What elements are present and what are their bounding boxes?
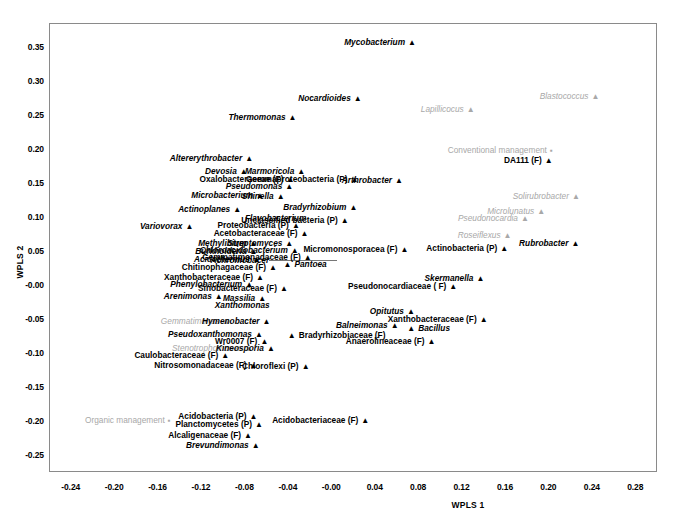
triangle-marker-icon: ▲ [285,181,293,190]
triangle-marker-icon: ▲ [476,274,484,283]
x-axis-title: WPLS 1 [0,500,680,510]
data-point-label: Altererythrobacter [170,153,242,163]
data-point: Micromonosporacea (F)▲ [303,244,408,253]
data-point-label: Rubrobacter [519,237,568,247]
data-point-label: Alcaligenaceae (F) [168,429,241,439]
triangle-marker-icon: ▲ [263,316,271,325]
data-point-label: Shinella [242,191,274,201]
data-point-label: Organic management [85,415,165,425]
wpls-scatter-plot: 0.350.300.250.200.150.100.05-0.00-0.05-0… [0,0,680,522]
y-tick-label: -0.20 [25,416,44,426]
data-point-label: Nitrosomonadaceae (F) [154,359,246,369]
data-point: Alcaligenaceae (F)▲ [168,430,252,439]
data-point: Pseudonocardia▲ [458,214,529,223]
triangle-marker-icon: ▲ [500,244,508,253]
y-tick-label: -0.10 [25,348,44,358]
data-point-label: Actinoplanes [178,203,230,213]
data-point: Organic management▪ [85,416,171,425]
x-tick-label: 0.04 [367,482,383,492]
triangle-marker-icon: ▲ [288,330,296,339]
data-point-label: Pseudonocardiaceae ( F) [348,280,446,290]
data-point: Shinella▲ [242,192,285,201]
data-point-label: Pseudonocardia [458,213,518,223]
data-point: Lapillicocus▲ [421,105,475,114]
triangle-marker-icon: ▲ [480,314,488,323]
data-point: Actinobacteria (P)▲ [426,244,508,253]
data-point: Solirubrobacter▲ [513,191,580,200]
data-point-label: Lapillicocus [421,104,464,114]
data-point: Variovorax▲ [140,222,194,231]
x-tick-label: 0.08 [410,482,426,492]
data-point: Chloroflexi (P)▲ [242,361,310,370]
x-tick-label: 0.24 [584,482,600,492]
data-point-label: Hymenobacter [202,315,260,325]
triangle-marker-icon: ▲ [244,430,252,439]
triangle-marker-icon: ▲ [361,416,369,425]
data-point-label: Anaerolineaceae (F) [346,335,425,345]
data-point: Rubrobacter▲ [519,238,579,247]
triangle-marker-icon: ▲ [185,222,193,231]
data-point: Altererythrobacter▲ [170,154,253,163]
data-point: Acetobacteraceae (F)▲ [214,228,309,237]
data-point: ▲Bacillus [407,323,450,332]
data-point: Pseudonocardiaceae ( F)▲ [348,281,457,290]
data-point-label: Arthrobacter [342,175,392,185]
triangle-marker-icon: ▲ [349,203,357,212]
triangle-marker-icon: ▲ [354,93,362,102]
triangle-marker-icon: ▲ [395,176,403,185]
data-point-label: Bradyrhizobium [283,202,346,212]
data-point-label: Mycobacterium [344,37,405,47]
data-point: Thermomonas▲ [228,112,296,121]
data-point: Nocardioides▲ [298,93,361,102]
triangle-marker-icon: ▲ [341,216,349,225]
triangle-marker-icon: ▲ [269,263,277,272]
y-tick-label: -0.25 [25,450,44,460]
y-tick-label: -0.15 [25,382,44,392]
data-point-label: Actinobacteria (P) [426,243,497,253]
data-point: ▲Pantoea [284,259,327,268]
data-point: DA111 (F)▲ [504,155,553,164]
data-point: Planctomycetes (P)▲ [175,420,262,429]
triangle-marker-icon: ▲ [545,155,553,164]
data-point-label: Solirubrobacter [513,190,569,200]
x-tick-label: 0.16 [497,482,513,492]
data-point: Actinoplanes▲ [178,204,241,213]
data-point-label: Variovorax [140,221,183,231]
triangle-marker-icon: ▲ [572,191,580,200]
data-point-label: Chloroflexi (P) [242,360,299,370]
data-point: Hymenobacter▲ [202,316,271,325]
triangle-marker-icon: ▲ [280,284,288,293]
x-tick-label: -0.00 [322,482,341,492]
data-point-label: Acidobacteriaceae (F) [272,415,358,425]
triangle-marker-icon: ▲ [408,38,416,47]
data-point-label: Thermomonas [228,111,285,121]
triangle-marker-icon: ▲ [252,441,260,450]
square-marker-icon: ▪ [168,416,171,425]
x-tick-label: -0.08 [235,482,254,492]
data-point-label: Nocardioides [298,92,351,102]
triangle-marker-icon: ▲ [233,204,241,213]
triangle-marker-icon: ▲ [407,323,415,332]
y-tick-label: -0.00 [25,280,44,290]
data-point: Conventional management▪ [448,145,553,154]
data-point-label: DA111 (F) [504,154,542,164]
data-point-label: Balneimonas [336,320,388,330]
data-point: Bradyrhizobium▲ [283,203,357,212]
triangle-marker-icon: ▲ [504,231,512,240]
x-tick-label: 0.12 [453,482,469,492]
triangle-marker-icon: ▲ [428,336,436,345]
data-point-label: Xanthomonas [215,299,270,309]
y-tick-label: 0.25 [28,110,44,120]
data-point-label: Blastococcus [540,90,589,100]
triangle-marker-icon: ▲ [289,112,297,121]
triangle-marker-icon: ▲ [301,228,309,237]
y-tick-label: -0.05 [25,314,44,324]
y-axis-title: WPLS 2 [15,242,25,282]
triangle-marker-icon: ▲ [449,281,457,290]
data-point-label: Micromonosporacea (F) [303,243,397,253]
data-point-label: Roseiflexus [458,230,501,240]
data-point-label: Pantoea [294,258,326,268]
x-tick-label: 0.28 [627,482,643,492]
x-tick-label: -0.12 [192,482,211,492]
data-point: Blastococcus▲ [540,91,600,100]
